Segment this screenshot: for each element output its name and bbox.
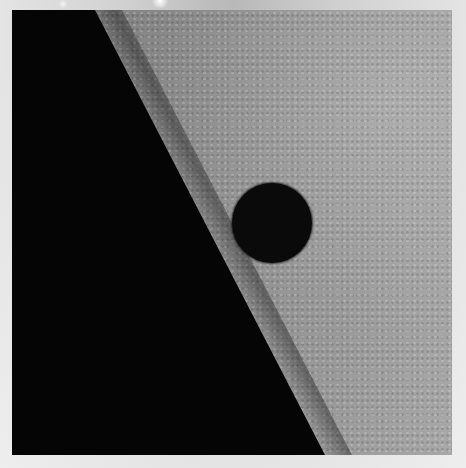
photo-frame (12, 10, 452, 455)
background-glow-spot (58, 0, 68, 8)
planet-disk (232, 183, 312, 263)
background-glow-spot (150, 0, 170, 8)
